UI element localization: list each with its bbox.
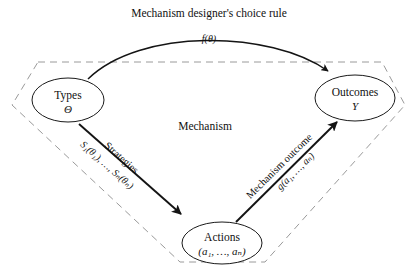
node-actions-label: Actions bbox=[204, 231, 240, 243]
node-actions[interactable]: Actions (a₁, …, aₙ) bbox=[182, 222, 262, 264]
region-label-mechanism: Mechanism bbox=[178, 120, 232, 132]
diagram-canvas: Types Θ Outcomes Y Actions (a₁, …, aₙ) M… bbox=[0, 0, 418, 275]
edge-choice-rule-label: Mechanism designer's choice rule bbox=[131, 7, 287, 20]
node-outcomes-ellipse bbox=[315, 75, 395, 121]
node-outcomes[interactable]: Outcomes Y bbox=[315, 75, 395, 121]
edge-choice-rule-arrow bbox=[88, 40, 328, 79]
edge-strategies-label-group: Strategies S₁(θ₁), …, Sₙ(θₙ) bbox=[78, 127, 147, 192]
node-types[interactable]: Types Θ bbox=[32, 78, 104, 122]
edge-choice-rule-formula: f(θ) bbox=[202, 33, 217, 45]
mechanism-diagram: Types Θ Outcomes Y Actions (a₁, …, aₙ) M… bbox=[0, 0, 418, 275]
edge-mechanism-outcome-label-group: Mechanism outcome g(a₁, …, aₙ) bbox=[244, 131, 326, 212]
node-types-sublabel: Θ bbox=[64, 103, 72, 115]
node-types-label: Types bbox=[54, 89, 82, 102]
node-outcomes-label: Outcomes bbox=[332, 86, 379, 98]
node-actions-ellipse bbox=[182, 222, 262, 264]
node-actions-sublabel: (a₁, …, aₙ) bbox=[198, 245, 246, 258]
